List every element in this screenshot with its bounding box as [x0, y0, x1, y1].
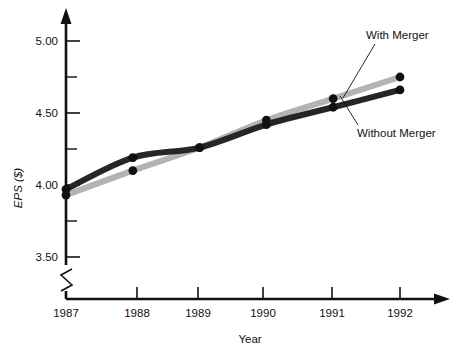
y-axis-ticks: [66, 41, 80, 257]
x-tick-label-1988: 1988: [124, 307, 150, 319]
y-axis: [61, 8, 72, 299]
annotation-without-merger: Without Merger: [357, 127, 436, 139]
x-tick-label-1990: 1990: [250, 307, 276, 319]
data-point: [195, 143, 204, 152]
y-axis-arrowhead: [61, 8, 72, 24]
data-point: [128, 153, 137, 162]
x-axis-arrowhead: [434, 294, 450, 305]
data-point: [62, 185, 71, 194]
y-axis-break-icon: [61, 265, 72, 291]
y-tick-label-450: 4.50: [36, 107, 58, 119]
eps-merger-line-chart: 5.00 4.50 4.00 3.50 EPS ($) 1987 1988 19…: [0, 0, 460, 359]
data-point: [329, 94, 338, 103]
y-tick-label-500: 5.00: [36, 35, 58, 47]
chart-canvas: 5.00 4.50 4.00 3.50 EPS ($) 1987 1988 19…: [0, 0, 460, 359]
y-tick-label-400: 4.00: [36, 179, 58, 191]
x-axis: [66, 294, 450, 305]
x-tick-label-1991: 1991: [319, 307, 345, 319]
annotation-with-merger: With Merger: [366, 29, 429, 41]
x-tick-label-1989: 1989: [185, 307, 211, 319]
y-axis-title: EPS ($): [12, 168, 24, 208]
data-point: [396, 86, 405, 95]
data-point: [128, 166, 137, 175]
x-axis-title: Year: [238, 333, 261, 345]
y-tick-label-350: 3.50: [36, 251, 58, 263]
x-tick-label-1992: 1992: [387, 307, 413, 319]
x-axis-ticks: [137, 287, 400, 299]
x-tick-label-1987: 1987: [53, 307, 79, 319]
data-point: [262, 120, 271, 129]
data-point: [396, 73, 405, 82]
data-point: [329, 103, 338, 112]
